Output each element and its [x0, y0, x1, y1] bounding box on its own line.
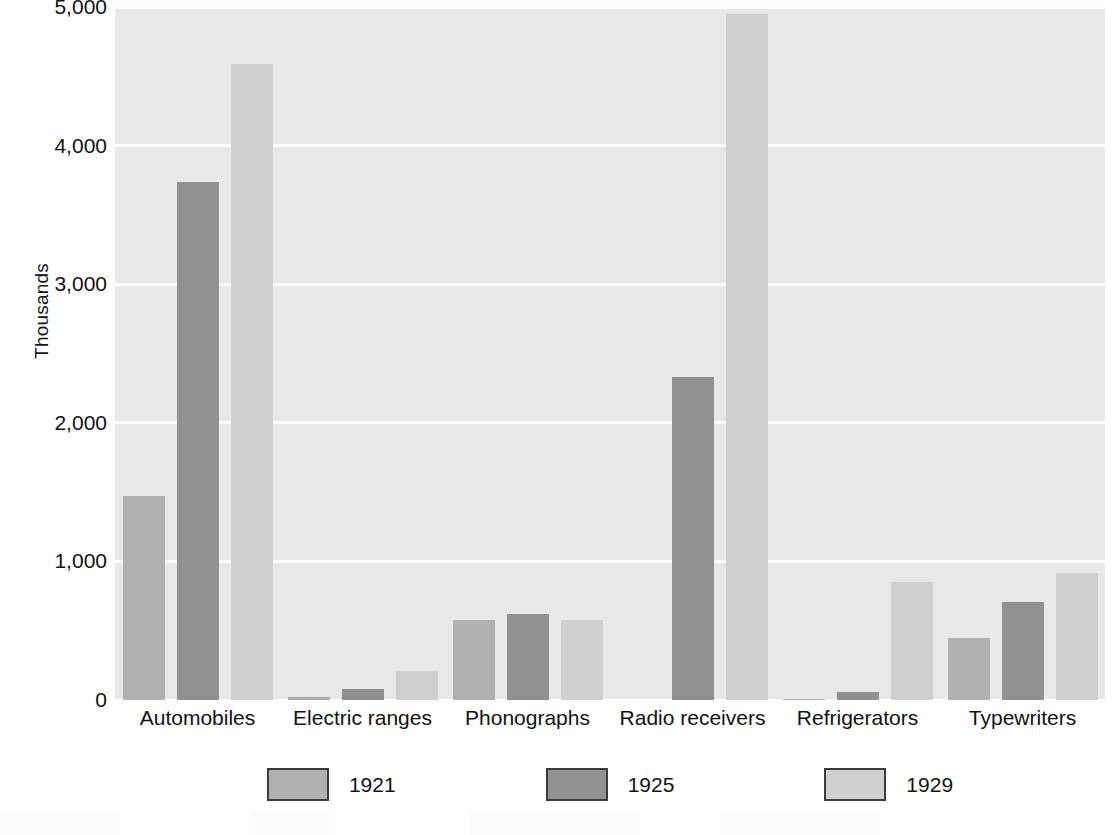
x-axis-tick-label: Typewriters	[940, 706, 1105, 730]
bar	[672, 377, 714, 700]
bar	[396, 671, 438, 700]
y-axis-tick-labels: 01,0002,0003,0004,0005,000	[0, 0, 107, 835]
bar	[1002, 602, 1044, 700]
y-axis-tick-label: 2,000	[0, 412, 107, 433]
chart-legend: 192119251929	[115, 762, 1105, 806]
bar-chart-figure: Thousands 01,0002,0003,0004,0005,000 Aut…	[0, 0, 1119, 835]
bar-group	[453, 7, 603, 700]
bar	[891, 582, 933, 700]
bar-group	[783, 7, 933, 700]
x-axis-tick-labels: AutomobilesElectric rangesPhonographsRad…	[115, 706, 1105, 740]
legend-spacer	[674, 784, 824, 785]
y-axis-tick-label: 3,000	[0, 273, 107, 294]
bar	[783, 699, 825, 700]
y-axis-tick-label: 4,000	[0, 135, 107, 156]
legend-item: 1925	[546, 768, 675, 801]
bar	[561, 620, 603, 700]
bar	[507, 614, 549, 700]
bar	[1056, 573, 1098, 701]
x-axis-tick-label: Radio receivers	[610, 706, 775, 730]
bar	[453, 620, 495, 700]
y-axis-tick-label: 0	[0, 689, 107, 710]
legend-item: 1929	[824, 768, 953, 801]
x-axis-tick-label: Automobiles	[115, 706, 280, 730]
legend-spacer	[396, 784, 546, 785]
scan-artifact	[0, 812, 1119, 835]
bar	[231, 64, 273, 700]
legend-swatch	[824, 768, 886, 801]
bar-group	[288, 7, 438, 700]
bar	[288, 697, 330, 700]
bar-group	[948, 7, 1098, 700]
legend-label: 1925	[628, 774, 675, 795]
bar	[726, 14, 768, 700]
x-axis-tick-label: Phonographs	[445, 706, 610, 730]
plot-area	[115, 7, 1105, 700]
legend-label: 1921	[349, 774, 396, 795]
y-axis-tick-label: 1,000	[0, 550, 107, 571]
legend-label: 1929	[906, 774, 953, 795]
x-axis-tick-label: Electric ranges	[280, 706, 445, 730]
bars-layer	[115, 7, 1105, 700]
bar	[948, 638, 990, 700]
bar	[837, 692, 879, 700]
bar	[342, 689, 384, 700]
legend-swatch	[546, 768, 608, 801]
bar-group	[123, 7, 273, 700]
bar-group	[618, 7, 768, 700]
y-axis-tick-label: 5,000	[0, 0, 107, 17]
legend-item: 1921	[267, 768, 396, 801]
x-axis-tick-label: Refrigerators	[775, 706, 940, 730]
bar	[123, 496, 165, 700]
bar	[177, 182, 219, 700]
legend-swatch	[267, 768, 329, 801]
